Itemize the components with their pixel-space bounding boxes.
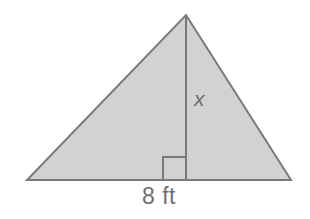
triangle-shape	[27, 15, 291, 180]
height-label: x	[194, 88, 205, 109]
geometry-figure: x 8 ft	[0, 0, 310, 219]
base-length-label: 8 ft	[4, 185, 310, 208]
